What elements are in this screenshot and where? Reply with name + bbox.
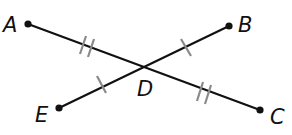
double-tick-dc [197, 82, 211, 104]
point-e [55, 104, 62, 111]
geometry-diagram: A B C D E [0, 0, 292, 135]
label-a: A [1, 13, 17, 37]
label-d: D [137, 77, 153, 101]
label-b: B [238, 13, 252, 37]
label-e: E [35, 103, 49, 127]
point-c [256, 106, 263, 113]
single-tick-ed [97, 76, 106, 93]
point-a [24, 20, 31, 27]
label-c: C [270, 105, 285, 129]
point-b [225, 22, 232, 29]
